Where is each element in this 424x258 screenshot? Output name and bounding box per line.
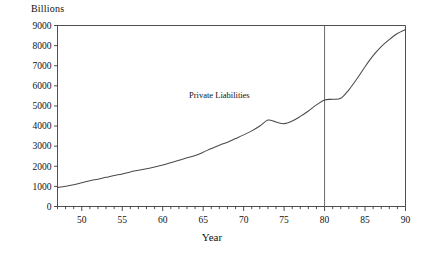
annotation-group: Private Liabilities: [189, 90, 250, 100]
x-tick-label: 65: [198, 215, 208, 225]
y-tick-label: 5000: [33, 101, 52, 111]
y-tick-label: 2000: [33, 162, 52, 172]
line-chart-plot: 0100020003000400050006000700080009000 50…: [0, 0, 424, 258]
x-tick-label: 70: [239, 215, 249, 225]
y-tick-label: 6000: [33, 81, 52, 91]
y-tick-label: 3000: [33, 141, 52, 151]
x-tick-label: 85: [360, 215, 370, 225]
x-tick-label: 60: [158, 215, 168, 225]
chart-container: Billions Year 01000200030004000500060007…: [0, 0, 424, 258]
series-line: [58, 30, 406, 188]
x-tick-label: 75: [279, 215, 289, 225]
y-tick-label: 0: [47, 202, 52, 212]
y-tick-label: 8000: [33, 41, 52, 51]
series-annotation-label: Private Liabilities: [189, 90, 250, 100]
y-tick-label: 1000: [33, 182, 52, 192]
y-tick-label: 4000: [33, 121, 52, 131]
x-axis-tick-group: 505560657075808590: [58, 207, 411, 225]
plot-frame: [58, 26, 406, 207]
x-tick-label: 80: [320, 215, 330, 225]
x-tick-label: 90: [401, 215, 411, 225]
x-tick-label: 55: [117, 215, 127, 225]
y-axis-tick-group: 0100020003000400050006000700080009000: [33, 21, 58, 212]
x-tick-label: 50: [77, 215, 87, 225]
y-tick-label: 9000: [33, 21, 52, 31]
y-tick-label: 7000: [33, 61, 52, 71]
data-series-group: [58, 30, 406, 188]
